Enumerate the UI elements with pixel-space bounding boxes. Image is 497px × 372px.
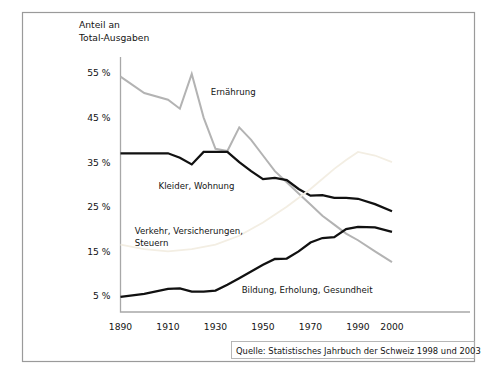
x-axis-ticks: 1890191019301950197019902000	[109, 321, 404, 332]
source-note: Quelle: Statistisches Jahrbuch der Schwe…	[236, 346, 481, 356]
x-tick-label: 1890	[109, 321, 133, 332]
x-tick-label: 1990	[346, 321, 370, 332]
figure-border	[23, 13, 475, 362]
y-axis-title-line1: Anteil an	[79, 19, 120, 30]
series-label-2: Steuern	[135, 238, 169, 248]
x-tick-label: 1970	[299, 321, 323, 332]
x-tick-label: 1910	[156, 321, 180, 332]
y-tick-label: 5 %	[93, 290, 111, 301]
series-label-3: Bildung, Erholung, Gesundheit	[242, 285, 374, 295]
y-axis-ticks: 55 %45 %35 %25 %15 %5 %	[87, 67, 111, 301]
series-labels: ErnährungKleider, WohnungVerkehr, Versic…	[135, 87, 373, 295]
y-tick-label: 45 %	[87, 112, 111, 123]
x-tick-label: 1930	[204, 321, 228, 332]
series-label-1: Kleider, Wohnung	[159, 181, 235, 191]
y-tick-label: 15 %	[87, 246, 111, 257]
series-label-0: Ernährung	[211, 87, 256, 97]
y-tick-label: 25 %	[87, 201, 111, 212]
chart-figure: 55 %45 %35 %25 %15 %5 % 1890191019301950…	[0, 0, 497, 372]
y-axis-title-line2: Total-Ausgaben	[78, 32, 149, 43]
series-label-2: Verkehr, Versicherungen,	[135, 226, 243, 236]
x-tick-label: 2000	[380, 321, 404, 332]
y-tick-label: 35 %	[87, 157, 111, 168]
x-tick-label: 1950	[251, 321, 275, 332]
y-tick-label: 55 %	[87, 67, 111, 78]
